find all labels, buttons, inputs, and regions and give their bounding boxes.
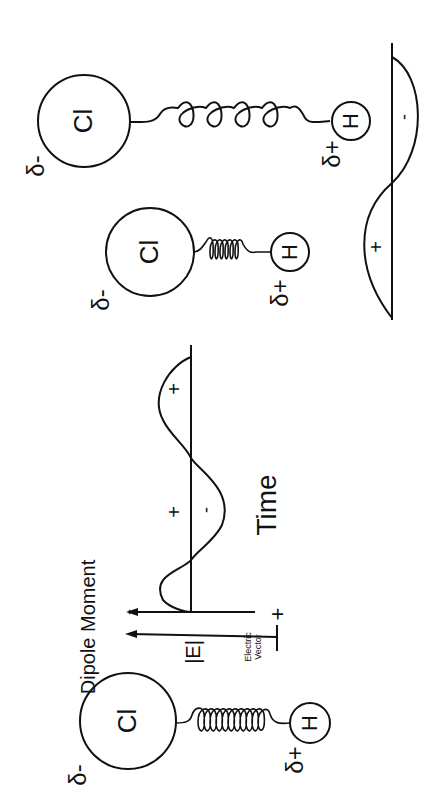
molecule-compressed: Cl H δ- δ+ <box>87 208 309 311</box>
dipole-moment-arrow: Dipole Moment - + <box>77 559 290 694</box>
e-magnitude-label: |E| <box>182 640 204 664</box>
cl-label: Cl <box>134 240 164 265</box>
electric-field-plot: + - + + Time |E| Electric Electric Vecto… <box>126 345 282 664</box>
spring-medium <box>176 708 290 731</box>
dipole-diagram: Cl H δ- δ+ - + Cl H δ- δ+ + - + + Time |… <box>0 0 433 811</box>
wave-minus-sign: - <box>394 114 414 120</box>
h-label: H <box>277 244 302 260</box>
spring-long <box>131 102 330 126</box>
delta-plus-label: δ+ <box>266 279 293 306</box>
minus-lobe: - <box>196 507 216 513</box>
delta-plus-label: δ+ <box>318 140 345 167</box>
h-label: H <box>338 113 363 129</box>
molecule-stretched: Cl H δ- δ+ <box>22 75 370 177</box>
delta-minus-label: δ- <box>64 764 91 785</box>
molecule-equilibrium: Cl H δ- δ+ <box>64 673 330 786</box>
arrowhead-icon <box>125 630 137 638</box>
dipole-minus-sign: - <box>119 609 139 615</box>
delta-minus-label: δ- <box>87 289 114 310</box>
cl-label: Cl <box>68 109 98 134</box>
cl-label: Cl <box>112 709 142 734</box>
dipole-plus-sign: + <box>265 608 290 621</box>
h-label: H <box>297 715 322 731</box>
delta-plus-label: δ+ <box>281 746 308 773</box>
time-label: Time <box>251 474 282 535</box>
dipole-wave: - + <box>364 43 418 320</box>
dipole-moment-label: Dipole Moment <box>77 559 99 694</box>
vector-label: Vector <box>253 634 263 660</box>
wave-plus-sign: + <box>365 241 387 253</box>
plus-lobe-2-visible: + <box>163 506 185 518</box>
delta-minus-label: δ- <box>22 155 49 176</box>
plus-lobe-1: + <box>163 383 185 395</box>
spring-short <box>194 238 271 259</box>
